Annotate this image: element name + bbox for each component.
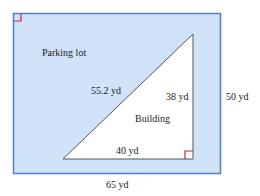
triangle-height-label: 38 yd [166, 92, 189, 102]
diagram-canvas [0, 0, 260, 196]
lot-width-label: 65 yd [106, 180, 129, 190]
parking-lot-label: Parking lot [42, 48, 86, 58]
lot-height-label: 50 yd [226, 92, 249, 102]
triangle-base-label: 40 yd [116, 146, 139, 156]
building-label: Building [135, 114, 170, 124]
hypotenuse-label: 55.2 yd [91, 86, 121, 96]
